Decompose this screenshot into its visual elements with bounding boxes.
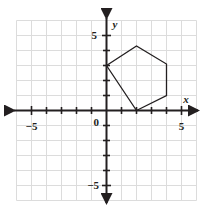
y-tick-label-neg5: −5	[87, 179, 99, 191]
y-tick-label-5: 5	[92, 29, 98, 41]
x-tick-label-5: 5	[179, 120, 185, 132]
origin-label: 0	[94, 116, 100, 128]
x-tick-label-neg5: −5	[26, 120, 38, 132]
y-axis-label: y	[111, 18, 118, 30]
coordinate-plane-svg: −5 5 5 −5 0 x y	[0, 0, 211, 220]
x-axis-label: x	[182, 93, 189, 105]
coordinate-graph-figure: −5 5 5 −5 0 x y	[0, 0, 211, 220]
